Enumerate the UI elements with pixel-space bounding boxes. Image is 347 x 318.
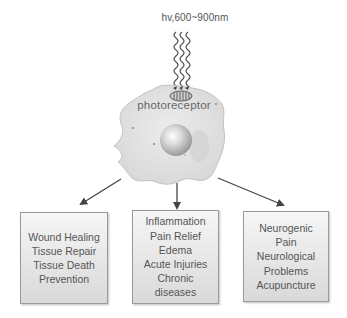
outcome-box-right: Neurogenic Pain Neurological Problems Ac… <box>243 211 329 302</box>
box-line: Wound Healing <box>28 230 100 244</box>
arrow-to-right-box <box>218 178 283 205</box>
box-line: Pain Relief <box>150 229 201 243</box>
nucleus-icon <box>160 124 192 156</box>
box-line: Edema <box>159 243 192 257</box>
outcome-box-middle: Inflammation Pain Relief Edema Acute Inj… <box>132 210 219 304</box>
box-line: diseases <box>155 285 196 299</box>
box-line: Acute Injuries <box>144 257 208 271</box>
box-line: Neurological <box>257 249 315 263</box>
box-line: Pain <box>275 235 296 249</box>
box-line: Acupuncture <box>257 278 316 292</box>
arrow-to-left-box <box>81 179 121 204</box>
box-line: Chronic <box>157 271 193 285</box>
box-line: Problems <box>264 264 308 278</box>
box-line: Prevention <box>39 272 89 286</box>
outcome-box-left: Wound Healing Tissue Repair Tissue Death… <box>20 212 108 304</box>
wavy-light-rays-icon <box>174 32 190 90</box>
box-line: Tissue Death <box>33 258 94 272</box>
photoreceptor-label: photoreceptor <box>124 99 224 111</box>
box-line: Tissue Repair <box>32 244 96 258</box>
box-line: Inflammation <box>145 214 205 228</box>
box-line: Neurogenic <box>259 221 313 235</box>
